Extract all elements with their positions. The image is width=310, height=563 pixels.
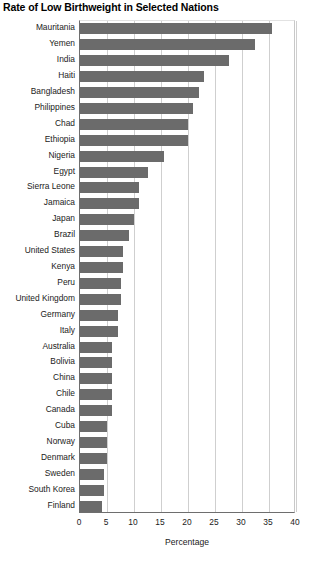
category-label: Ethiopia [0,134,75,145]
category-label: Brazil [0,229,75,240]
bar [80,501,102,512]
bar [80,198,139,209]
bar [80,214,134,225]
category-label: Chad [0,118,75,129]
tick-label: 35 [263,517,272,527]
bar [80,469,104,480]
category-label: Bangladesh [0,86,75,97]
category-label: Yemen [0,38,75,49]
category-label: Jamaica [0,197,75,208]
gridline [296,21,297,512]
x-axis-title: Percentage [79,537,295,547]
bar [80,182,139,193]
bar [80,310,118,321]
category-label: Japan [0,213,75,224]
tick-label: 15 [155,517,164,527]
category-label: Sierra Leone [0,181,75,192]
bar [80,421,107,432]
category-label: Norway [0,436,75,447]
bar [80,39,255,50]
bar [80,55,229,66]
bar [80,294,121,305]
tick-label: 20 [182,517,191,527]
bar [80,278,121,289]
category-label: Mauritania [0,22,75,33]
bar [80,246,123,257]
bar [80,87,199,98]
bar [80,357,112,368]
bar [80,151,164,162]
tick-label: 10 [128,517,137,527]
tick-label: 5 [104,517,109,527]
category-label: Nigeria [0,150,75,161]
chart-title: Rate of Low Birthweight in Selected Nati… [3,1,219,13]
category-label: India [0,54,75,65]
bar [80,342,112,353]
bar [80,453,107,464]
bar [80,326,118,337]
bar [80,135,188,146]
bar [80,23,272,34]
bar [80,437,107,448]
category-label: Sweden [0,468,75,479]
category-label: Finland [0,500,75,511]
category-label: United Kingdom [0,293,75,304]
bar [80,71,204,82]
bar [80,485,104,496]
category-label: Philippines [0,102,75,113]
category-label: Canada [0,404,75,415]
bar-series [80,21,294,512]
category-label: Germany [0,309,75,320]
plot-area [79,20,295,513]
bar [80,373,112,384]
tick-label: 40 [290,517,299,527]
bar [80,167,148,178]
bar [80,103,193,114]
category-label: United States [0,245,75,256]
tick-label: 25 [209,517,218,527]
category-label: Peru [0,277,75,288]
tick-label: 30 [236,517,245,527]
value-axis-labels: 0510152025303540 [0,517,310,531]
category-label: Egypt [0,166,75,177]
category-label: Cuba [0,420,75,431]
category-label: Kenya [0,261,75,272]
category-label: Italy [0,325,75,336]
tick-label: 0 [77,517,82,527]
category-label: Haiti [0,70,75,81]
bar [80,389,112,400]
category-label: South Korea [0,484,75,495]
category-label: Bolivia [0,356,75,367]
category-label: Denmark [0,452,75,463]
category-label: Australia [0,341,75,352]
bar [80,405,112,416]
bar [80,262,123,273]
category-label: China [0,372,75,383]
bar [80,119,188,130]
bar-chart: Rate of Low Birthweight in Selected Nati… [0,0,310,563]
category-label: Chile [0,388,75,399]
bar [80,230,129,241]
